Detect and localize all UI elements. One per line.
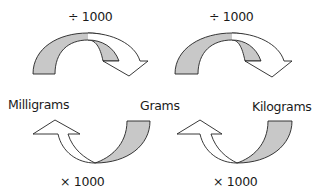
op-multiply-bottom-left: × 1000: [60, 176, 104, 189]
op-multiply-bottom-right: × 1000: [213, 176, 257, 189]
unit-kilograms: Kilograms: [252, 101, 312, 114]
op-divide-top-right: ÷ 1000: [209, 11, 253, 24]
arrow-kg-to-g: [177, 120, 292, 163]
unit-grams: Grams: [140, 100, 180, 113]
op-divide-top-left: ÷ 1000: [68, 11, 112, 24]
arrow-mg-to-g: [33, 33, 148, 76]
arrow-g-to-mg: [33, 120, 150, 163]
unit-milligrams: Milligrams: [8, 99, 69, 112]
arrow-g-to-kg: [175, 33, 292, 77]
